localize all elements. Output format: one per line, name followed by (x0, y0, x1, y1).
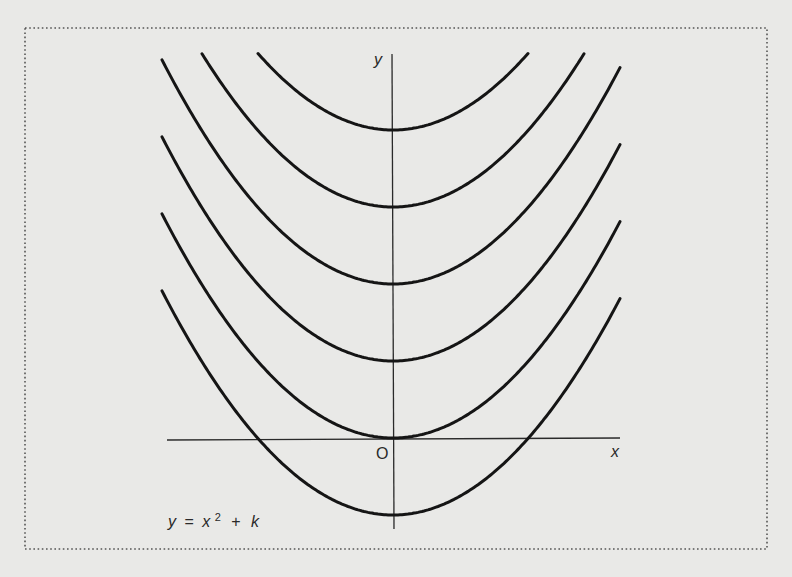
chart: y x O y = x 2 + k (0, 0, 792, 577)
parabola-curve (162, 291, 620, 515)
origin-label: O (376, 445, 388, 462)
y-axis-label: y (373, 51, 383, 68)
dotted-frame (25, 28, 767, 549)
y-axis (392, 54, 394, 529)
equation-equals: = (184, 513, 193, 530)
equation-exponent: 2 (215, 511, 221, 523)
equation-plus: + (231, 513, 240, 530)
parabola-family (162, 54, 620, 516)
equation-x: x (201, 513, 211, 530)
x-axis-label: x (610, 443, 620, 460)
equation-k: k (251, 513, 260, 530)
equation-label: y = x 2 + k (167, 507, 260, 530)
parabola-curve (258, 54, 528, 131)
equation-y: y (167, 513, 177, 530)
